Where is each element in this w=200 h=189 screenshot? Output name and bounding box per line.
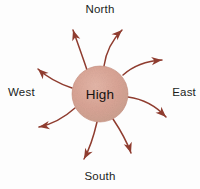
arrow-south-southwest-head	[80, 148, 92, 161]
direction-label-south: South	[0, 170, 200, 182]
high-label: High	[86, 87, 115, 102]
direction-label-north: North	[0, 3, 200, 15]
arrow-north-northeast-head	[112, 27, 125, 40]
arrow-northwest-north-head	[69, 29, 80, 42]
arrow-south-southeast-head	[124, 142, 135, 155]
direction-label-east: East	[172, 86, 196, 98]
high-pressure-diagram: High North East South West	[0, 0, 200, 189]
direction-label-west: West	[8, 86, 35, 98]
arrow-west-northwest-head	[35, 66, 48, 79]
